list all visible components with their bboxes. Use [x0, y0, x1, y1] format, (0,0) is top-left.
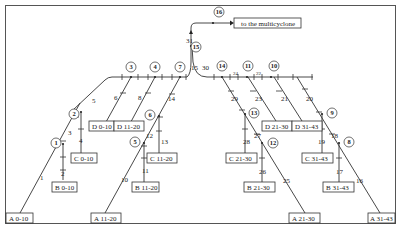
segment-label: 25 — [283, 177, 291, 185]
svg-text:B 21-30: B 21-30 — [247, 184, 270, 192]
source-box-b-0-10: B 0-10 — [52, 182, 77, 192]
segment-label: 23 — [255, 95, 263, 103]
svg-text:A 21-30: A 21-30 — [292, 215, 315, 223]
segment-label: 15 — [191, 64, 199, 72]
svg-text:A 11-20: A 11-20 — [94, 215, 117, 223]
segment-label: 2 — [61, 170, 65, 178]
node-5: 5 — [130, 137, 140, 147]
node-8: 8 — [344, 137, 354, 147]
svg-text:D 21-30: D 21-30 — [265, 123, 289, 131]
node-6: 6 — [145, 110, 155, 120]
node-4: 4 — [150, 62, 160, 72]
segment-label: 12 — [146, 132, 154, 140]
destination-label: to the multicyclone — [241, 20, 295, 28]
source-box-b-31-43: B 31-43 — [323, 182, 354, 192]
segment-label: 31 — [186, 37, 194, 45]
svg-text:11: 11 — [245, 62, 251, 69]
segment-label: 17 — [336, 168, 344, 176]
source-box-a-21-30: A 21-30 — [289, 213, 320, 223]
node-7: 7 — [175, 62, 185, 72]
segment-label: 13 — [161, 138, 169, 146]
source-box-a-31-43: A 31-43 — [368, 213, 395, 223]
source-box-a-11-20: A 11-20 — [91, 213, 121, 223]
node-10: 10 — [269, 61, 279, 71]
source-box-d-11-20: D 11-20 — [114, 121, 144, 131]
segment-label: 26 — [259, 168, 267, 176]
source-box-c-21-30: C 21-30 — [226, 153, 257, 163]
segment-label: 5 — [92, 97, 96, 105]
svg-text:C 0-10: C 0-10 — [74, 155, 94, 163]
source-box-c-11-20: C 11-20 — [147, 153, 177, 163]
source-box-a-0-10: A 0-10 — [6, 213, 33, 223]
svg-text:16: 16 — [216, 8, 223, 15]
segment-label: 30 — [202, 64, 210, 72]
segment-label: 3 — [68, 129, 72, 137]
source-box-d-31-43: D 31-43 — [292, 121, 322, 131]
node-1: 1 — [51, 138, 61, 148]
svg-text:B 31-43: B 31-43 — [326, 184, 349, 192]
segment-label: 24 — [233, 71, 239, 76]
node-16: 16 — [214, 7, 224, 17]
segment-label: 18 — [331, 132, 339, 140]
arrow-up-icon — [189, 30, 193, 34]
segment-label: 28 — [243, 138, 251, 146]
svg-text:C 21-30: C 21-30 — [229, 155, 252, 163]
svg-text:D 0-10: D 0-10 — [92, 123, 112, 131]
svg-text:15: 15 — [193, 43, 200, 50]
segment-label: 16 — [356, 177, 364, 185]
svg-text:C 31-43: C 31-43 — [305, 155, 328, 163]
segment-label: 8 — [138, 94, 142, 102]
node-13: 13 — [249, 108, 259, 118]
svg-text:B 0-10: B 0-10 — [55, 184, 75, 192]
diagram-canvas: to the multicyclone 16 15 31 15 30 3 4 7 — [0, 0, 400, 229]
segment-label: 4 — [79, 137, 83, 145]
node-3: 3 — [126, 62, 136, 72]
segment-label: 14 — [168, 95, 176, 103]
source-box-d-0-10: D 0-10 — [89, 121, 114, 131]
segment-label: 22 — [256, 71, 262, 76]
segment-label: 20 — [306, 95, 314, 103]
segment-label: 19 — [318, 138, 326, 146]
svg-text:B 11-20: B 11-20 — [135, 184, 158, 192]
node-2: 2 — [69, 109, 79, 119]
segment-label: 6 — [114, 94, 118, 102]
node-14: 14 — [217, 61, 227, 71]
segment-label: 1 — [40, 174, 44, 182]
svg-text:D 11-20: D 11-20 — [117, 123, 140, 131]
svg-text:10: 10 — [271, 62, 278, 69]
segment-label: 29 — [231, 95, 239, 103]
source-box-c-31-43: C 31-43 — [302, 153, 333, 163]
svg-text:14: 14 — [219, 62, 226, 69]
svg-text:A 31-43: A 31-43 — [370, 215, 393, 223]
source-box-b-21-30: B 21-30 — [244, 182, 275, 192]
segment-label: 27 — [254, 132, 262, 140]
node-12: 12 — [268, 138, 278, 148]
source-box-d-21-30: D 21-30 — [262, 121, 292, 131]
arrow-head-icon — [230, 21, 234, 26]
segment-label: 11 — [142, 167, 149, 175]
svg-text:12: 12 — [270, 139, 277, 146]
svg-text:1: 1 — [54, 139, 57, 146]
svg-text:C 11-20: C 11-20 — [150, 155, 173, 163]
svg-text:A 0-10: A 0-10 — [9, 215, 29, 223]
node-9: 9 — [327, 108, 337, 118]
segment-label: 21 — [281, 95, 289, 103]
svg-text:13: 13 — [251, 109, 258, 116]
source-box-c-0-10: C 0-10 — [71, 153, 97, 163]
segment-label: 10 — [121, 176, 129, 184]
svg-text:D 31-43: D 31-43 — [295, 123, 319, 131]
svg-text:2: 2 — [72, 110, 75, 117]
node-11: 11 — [243, 61, 253, 71]
source-box-b-11-20: B 11-20 — [132, 182, 159, 192]
